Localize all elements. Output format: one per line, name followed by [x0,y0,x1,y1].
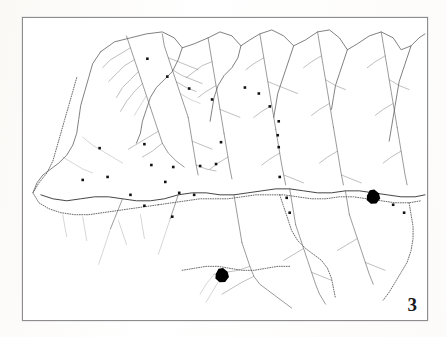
site-dot [403,211,406,214]
site-dot [277,146,280,149]
river-network-south [63,215,385,308]
site-dot [164,181,167,184]
site-dot [276,134,279,137]
site-dot [81,179,84,182]
site-dot [146,57,149,60]
site-dot [193,194,196,197]
site-dot [143,143,146,146]
map-canvas: .riv { fill:none; stroke:#5c5c5c; stroke… [23,18,427,320]
river-network-north [103,32,409,133]
political-boundary [33,78,421,301]
site-dot [244,86,247,89]
site-dot [171,215,174,218]
site-dot [178,192,181,195]
site-dot [392,203,395,206]
site-dot [277,120,280,123]
site-dot [98,147,101,150]
site-dot [288,211,291,214]
site-dot [150,164,153,167]
site-dot [215,163,218,166]
site-dot [188,87,191,90]
site-dot [211,98,214,101]
major-settlement-marker [367,190,381,204]
map-plate-frame: .riv { fill:none; stroke:#5c5c5c; stroke… [22,17,428,321]
site-dot [106,176,109,179]
site-dot [166,75,169,78]
site-dot [220,141,223,144]
site-dot [258,92,261,95]
site-dot [285,197,288,200]
figure-root: .riv { fill:none; stroke:#5c5c5c; stroke… [0,0,446,337]
site-dot [199,165,202,168]
river-network-middle [63,107,407,184]
site-dot [129,194,132,197]
site-dot [172,166,175,169]
site-dot [143,204,146,207]
figure-number: 3 [408,295,418,314]
coastline-upper [33,30,425,193]
site-dot [268,105,271,108]
major-settlement-layer [215,190,380,283]
major-settlement-marker [215,268,229,282]
site-dot [278,176,281,179]
